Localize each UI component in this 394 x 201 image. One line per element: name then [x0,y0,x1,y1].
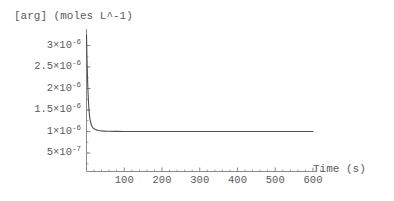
plot-area [0,0,394,201]
data-series-line [87,35,314,132]
axes [87,29,317,172]
x-axis-ticks [94,168,320,172]
